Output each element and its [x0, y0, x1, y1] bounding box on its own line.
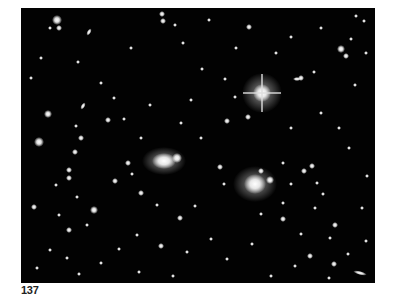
galaxy-left	[142, 147, 186, 175]
figure-number: 137	[21, 284, 38, 297]
bright-star	[242, 73, 282, 113]
starfield-image	[21, 8, 375, 283]
galaxy-right	[233, 166, 277, 202]
galaxy-cluster-photo	[21, 8, 375, 283]
